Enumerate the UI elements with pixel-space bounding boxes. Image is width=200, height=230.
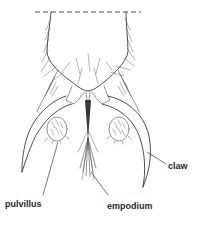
right-claw (102, 96, 150, 187)
left-hair-tuft (37, 70, 58, 112)
left-claw (22, 96, 72, 172)
empodium-leader (91, 172, 108, 195)
empodium (78, 100, 98, 180)
pulvillus-label: pulvillus (5, 200, 42, 209)
left-pulvillus (45, 117, 69, 144)
tarsal-segment (41, 12, 135, 91)
right-pulvillus (107, 117, 131, 144)
tarsus-diagram (0, 0, 200, 230)
empodium-label: empodium (107, 202, 153, 211)
right-hair-tuft (118, 70, 139, 112)
pulvillus-leader (43, 142, 58, 195)
claw-label: claw (168, 162, 188, 171)
